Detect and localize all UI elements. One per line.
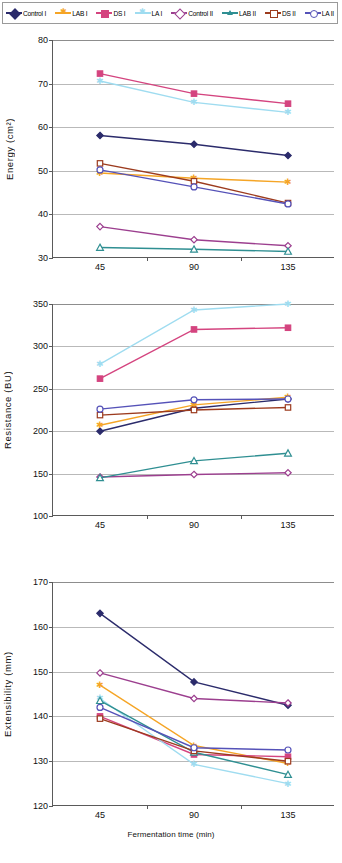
x-axis-title: Fermentation time (min) xyxy=(0,830,342,839)
x-axis-tick-label: 45 xyxy=(95,262,105,272)
legend-label: Control I xyxy=(23,10,46,17)
y-axis-tick-label: 130 xyxy=(33,756,48,766)
legend-label: LA II xyxy=(322,10,334,17)
legend-label: DS II xyxy=(282,10,296,17)
legend-item-lab-ii: LAB II xyxy=(222,9,256,17)
y-axis-tick-label: 50 xyxy=(38,166,48,176)
legend-swatch-diamond-icon xyxy=(6,9,22,17)
y-axis-tick-label: 70 xyxy=(38,79,48,89)
legend-item-control-ii: Control II xyxy=(171,9,213,17)
legend-item-ds-ii: DS II xyxy=(265,9,296,17)
series-la-ii xyxy=(97,704,291,753)
plot-area-energy: 3040506070804590135✱✱✱✱✱✱ xyxy=(52,40,334,258)
y-axis-tick xyxy=(49,516,53,517)
svg-text:✱: ✱ xyxy=(96,76,104,86)
legend-swatch-star-icon: ✱ xyxy=(55,9,71,17)
plot-area-resistance: 1001502002503003504590135✱✱✱✱✱✱ xyxy=(52,304,334,516)
legend-label: LAB I xyxy=(72,10,87,17)
y-axis-tick-label: 120 xyxy=(33,801,48,811)
svg-text:✱: ✱ xyxy=(284,177,292,187)
legend-item-ds-i: DS I xyxy=(96,9,125,17)
series-control-ii xyxy=(97,470,291,481)
y-axis-tick-label: 100 xyxy=(33,511,48,521)
series-la-i: ✱✱✱ xyxy=(96,299,292,369)
x-axis-tick-label: 90 xyxy=(189,810,199,820)
svg-text:✱: ✱ xyxy=(96,680,104,690)
y-axis-title: Resistance (BU) xyxy=(2,304,13,516)
y-axis-tick-label: 200 xyxy=(33,426,48,436)
legend-label: LAB II xyxy=(239,10,256,17)
y-axis-tick xyxy=(49,258,53,259)
svg-text:✱: ✱ xyxy=(96,420,104,430)
y-axis-tick-label: 300 xyxy=(33,341,48,351)
y-axis-tick-label: 350 xyxy=(33,299,48,309)
legend-item-la-i: ✱LA I xyxy=(135,9,163,17)
legend-item-la-ii: LA II xyxy=(305,9,334,17)
y-axis-title: Extensibility (mm) xyxy=(2,582,13,806)
svg-text:✱: ✱ xyxy=(284,107,292,117)
y-axis-tick-label: 30 xyxy=(38,253,48,263)
svg-text:✱: ✱ xyxy=(284,299,292,309)
y-axis-tick-label: 250 xyxy=(33,384,48,394)
series-control-ii xyxy=(97,670,291,706)
y-axis-tick-label: 150 xyxy=(33,469,48,479)
y-axis-tick-label: 60 xyxy=(38,122,48,132)
y-axis-tick-label: 140 xyxy=(33,711,48,721)
legend-label: LA I xyxy=(152,10,163,17)
svg-text:✱: ✱ xyxy=(284,779,292,789)
y-axis-tick-label: 170 xyxy=(33,577,48,587)
svg-text:✱: ✱ xyxy=(190,97,198,107)
chart-legend: Control I✱LAB IDS I✱LA IControl IILAB II… xyxy=(2,2,338,24)
x-axis-tick-label: 90 xyxy=(189,520,199,530)
legend-swatch-square-icon xyxy=(96,9,112,17)
x-axis-tick-label: 135 xyxy=(280,810,295,820)
chart-panel-extensibility: Extensibility (mm)1201301401501601704590… xyxy=(0,558,342,863)
legend-swatch-diamond-icon xyxy=(171,9,187,17)
plot-area-extensibility: 1201301401501601704590135✱✱✱✱✱✱ xyxy=(52,582,334,806)
series-la-i: ✱✱✱ xyxy=(96,76,292,117)
legend-swatch-star-icon: ✱ xyxy=(135,9,151,17)
legend-swatch-triangle-icon xyxy=(222,9,238,17)
legend-item-lab-i: ✱LAB I xyxy=(55,9,87,17)
legend-label: Control II xyxy=(188,10,213,17)
y-axis-tick xyxy=(49,806,53,807)
series-control-i xyxy=(97,610,291,708)
y-axis-tick-label: 150 xyxy=(33,667,48,677)
y-axis-tick-label: 80 xyxy=(38,35,48,45)
y-axis-tick-label: 160 xyxy=(33,622,48,632)
svg-text:✱: ✱ xyxy=(190,759,198,769)
svg-text:✱: ✱ xyxy=(190,305,198,315)
x-axis-tick-label: 135 xyxy=(280,520,295,530)
legend-swatch-square-icon xyxy=(265,9,281,17)
legend-swatch-circle-icon xyxy=(305,9,321,17)
x-axis-tick-label: 45 xyxy=(95,810,105,820)
x-axis-tick-label: 135 xyxy=(280,262,295,272)
series-control-i xyxy=(97,132,291,158)
legend-label: DS I xyxy=(113,10,125,17)
x-axis-tick-label: 45 xyxy=(95,520,105,530)
series-layer: ✱✱✱✱✱✱ xyxy=(53,582,335,806)
legend-item-control-i: Control I xyxy=(6,9,46,17)
y-axis-tick-label: 40 xyxy=(38,209,48,219)
series-ds-i xyxy=(97,325,290,381)
series-layer: ✱✱✱✱✱✱ xyxy=(53,304,335,516)
series-layer: ✱✱✱✱✱✱ xyxy=(53,40,335,258)
chart-panel-energy: Energy (cm²)3040506070804590135✱✱✱✱✱✱ xyxy=(0,28,342,296)
series-lab-ii xyxy=(97,244,292,254)
x-axis-tick-label: 90 xyxy=(189,262,199,272)
y-axis-title: Energy (cm²) xyxy=(4,40,15,258)
chart-panel-resistance: Resistance (BU)1001502002503003504590135… xyxy=(0,296,342,558)
svg-text:✱: ✱ xyxy=(96,359,104,369)
